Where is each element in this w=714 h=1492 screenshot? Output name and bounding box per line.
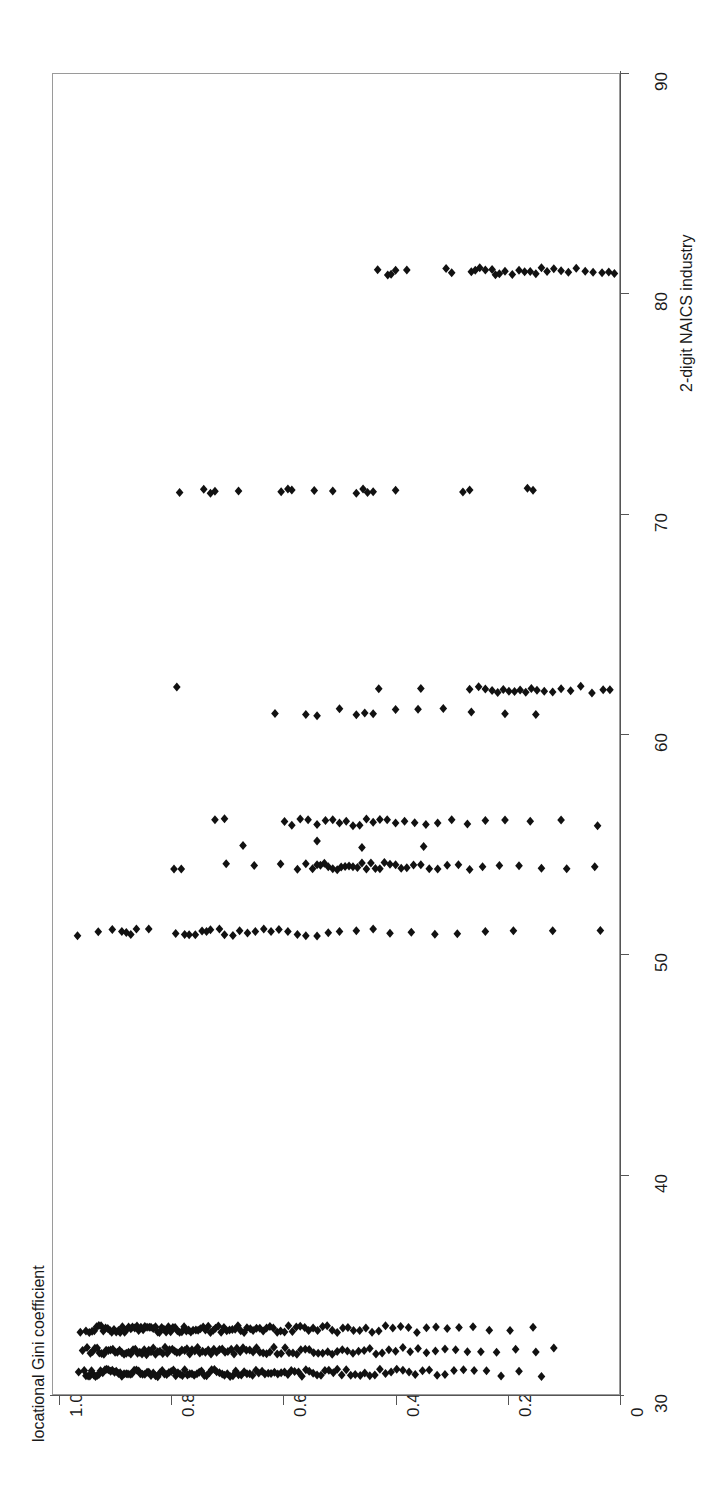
category-axis-tick-label: 60	[652, 733, 672, 752]
category-axis-title: 2-digit NAICS industry	[678, 235, 696, 392]
value-axis-tick	[620, 1395, 621, 1405]
category-axis-tick	[620, 73, 629, 74]
category-axis-tick-label: 80	[652, 292, 672, 311]
category-axis-tick-label: 50	[652, 953, 672, 972]
value-axis-tick	[59, 1395, 60, 1405]
value-axis-tick	[171, 1395, 172, 1405]
category-axis-tick	[620, 734, 629, 735]
value-axis-tick	[283, 1395, 284, 1405]
value-axis-tick-label: 0.6	[291, 1393, 311, 1417]
value-axis-tick	[396, 1395, 397, 1405]
category-axis-tick-label: 70	[652, 513, 672, 532]
value-axis-tick-label: 0.8	[179, 1393, 199, 1417]
value-axis-tick-label: 1.0	[67, 1393, 87, 1417]
value-axis-tick-label: 0	[628, 1408, 648, 1417]
category-axis-tick	[620, 1175, 629, 1176]
category-axis-tick-label: 90	[652, 72, 672, 91]
value-axis-line	[50, 1395, 624, 1396]
value-axis-tick-label: 0.2	[516, 1393, 536, 1417]
value-axis-title: locational Gini coefficient	[30, 1265, 48, 1442]
category-axis-tick	[620, 293, 629, 294]
value-axis-tick-label: 0.4	[404, 1393, 424, 1417]
category-axis-tick	[620, 954, 629, 955]
value-axis-tick	[508, 1395, 509, 1405]
plot-area-frame	[52, 73, 620, 1395]
category-axis-tick-label: 40	[652, 1174, 672, 1193]
figure-canvas: locational Gini coefficient 2-digit NAIC…	[0, 0, 714, 1492]
category-axis-tick-label: 30	[652, 1394, 672, 1413]
category-axis-tick	[620, 514, 629, 515]
